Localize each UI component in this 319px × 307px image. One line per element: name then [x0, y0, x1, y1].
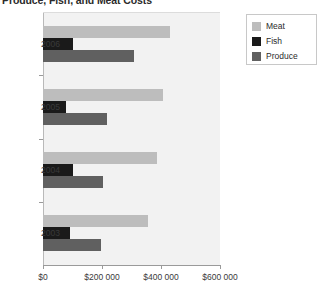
legend-swatch-produce-icon [252, 52, 261, 61]
legend-swatch-meat-icon [252, 22, 261, 31]
x-tick-label-3: $600 000 [202, 272, 237, 282]
x-tick-label-1: $200 000 [84, 272, 119, 282]
y-tick-label-2003: 2003 [41, 228, 60, 238]
bar-meat-2006 [43, 26, 170, 38]
bar-produce-2004 [43, 176, 103, 188]
y-tick-1 [39, 75, 43, 76]
bar-meat-2004 [43, 152, 157, 164]
chart-title: Produce, Fish, and Meat Costs [2, 0, 152, 6]
x-tick-1 [102, 265, 103, 269]
x-tick-0 [43, 265, 44, 269]
x-tick-2 [161, 265, 162, 269]
chart-legend: Meat Fish Produce [246, 14, 317, 65]
x-tick-label-2: $400 000 [143, 272, 178, 282]
legend-label-produce: Produce [266, 51, 298, 61]
x-axis-line [43, 265, 220, 266]
y-tick-label-2006: 2006 [41, 39, 60, 49]
chart-container: Produce, Fish, and Meat Costs $0$200 000… [0, 0, 319, 307]
bar-meat-2005 [43, 89, 163, 101]
legend-label-meat: Meat [266, 21, 285, 31]
legend-label-fish: Fish [266, 36, 282, 46]
bar-produce-2005 [43, 113, 107, 125]
y-tick-3 [39, 202, 43, 203]
legend-item-fish[interactable]: Fish [252, 34, 313, 48]
x-tick-3 [220, 265, 221, 269]
bar-produce-2006 [43, 50, 134, 62]
x-tick-label-0: $0 [38, 272, 47, 282]
plot-top-border [43, 12, 220, 13]
bar-meat-2003 [43, 215, 148, 227]
legend-swatch-fish-icon [252, 37, 261, 46]
y-tick-label-2005: 2005 [41, 102, 60, 112]
y-tick-2 [39, 139, 43, 140]
bar-produce-2003 [43, 239, 101, 251]
legend-item-meat[interactable]: Meat [252, 19, 313, 33]
y-tick-label-2004: 2004 [41, 165, 60, 175]
legend-item-produce[interactable]: Produce [252, 49, 313, 63]
